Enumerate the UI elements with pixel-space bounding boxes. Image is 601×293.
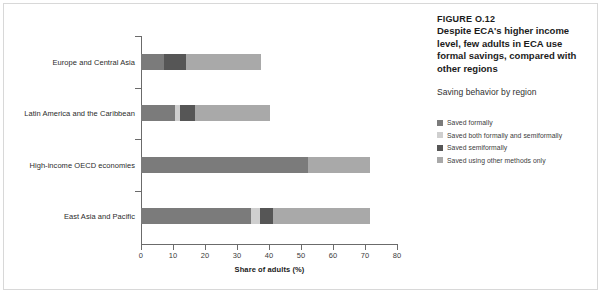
figure-text-panel: FIGURE O.12 Despite ECA's higher income … <box>437 14 592 168</box>
legend-swatch-icon <box>437 157 443 163</box>
bar-segment <box>260 208 273 224</box>
bar-segment <box>141 54 164 70</box>
x-axis-tick-label: 80 <box>385 251 409 260</box>
bar-segment <box>195 105 270 121</box>
x-axis-tick <box>301 245 302 250</box>
bar-segment <box>308 157 370 173</box>
y-axis-tick <box>135 139 141 140</box>
x-axis-tick-label: 30 <box>225 251 249 260</box>
legend-swatch-icon <box>437 120 443 126</box>
figure-subtitle: Saving behavior by region <box>437 87 592 97</box>
legend-label: Saved using other methods only <box>447 156 546 165</box>
legend-label: Saved semiformally <box>447 143 507 152</box>
x-axis-tick <box>205 245 206 250</box>
chart-legend: Saved formallySaved both formally and se… <box>437 118 592 165</box>
bar-segment <box>141 105 175 121</box>
x-axis-tick-label: 40 <box>257 251 281 260</box>
legend-item: Saved using other methods only <box>437 156 592 165</box>
bar-segment <box>141 208 251 224</box>
x-axis-tick <box>397 245 398 250</box>
bar-row <box>141 54 261 70</box>
x-axis-tick <box>141 245 142 250</box>
figure-number: FIGURE O.12 <box>437 14 592 24</box>
legend-swatch-icon <box>437 145 443 151</box>
x-axis-tick-label: 0 <box>129 251 153 260</box>
x-axis-tick-label: 60 <box>321 251 345 260</box>
figure-title: Despite ECA's higher income level, few a… <box>437 25 592 75</box>
category-label: Latin America and the Caribbean <box>8 109 135 118</box>
bar-segment <box>186 54 261 70</box>
category-label: High-income OECD economies <box>8 161 135 170</box>
bar-segment <box>164 54 187 70</box>
legend-swatch-icon <box>437 132 443 138</box>
bar-row <box>141 105 270 121</box>
x-axis-tick-label: 50 <box>289 251 313 260</box>
x-axis-tick-label: 20 <box>193 251 217 260</box>
figure-page: Europe and Central AsiaLatin America and… <box>0 0 601 293</box>
y-axis-tick <box>135 88 141 89</box>
category-label: East Asia and Pacific <box>8 212 135 221</box>
chart-panel: Europe and Central AsiaLatin America and… <box>8 8 420 285</box>
legend-label: Saved both formally and semiformally <box>447 131 562 140</box>
bar-row <box>141 157 370 173</box>
x-axis-title: Share of adults (%) <box>141 265 398 274</box>
bar-segment <box>180 105 195 121</box>
x-axis-tick <box>237 245 238 250</box>
bar-segment <box>251 208 259 224</box>
bar-segment <box>141 157 308 173</box>
legend-label: Saved formally <box>447 118 493 127</box>
y-axis-tick <box>135 191 141 192</box>
x-axis-tick <box>173 245 174 250</box>
category-label: Europe and Central Asia <box>8 58 135 67</box>
legend-item: Saved formally <box>437 118 592 127</box>
x-axis-tick <box>269 245 270 250</box>
legend-item: Saved semiformally <box>437 143 592 152</box>
bar-segment <box>273 208 370 224</box>
x-axis-tick-label: 10 <box>161 251 185 260</box>
x-axis-tick-label: 70 <box>353 251 377 260</box>
legend-item: Saved both formally and semiformally <box>437 131 592 140</box>
x-axis-tick <box>333 245 334 250</box>
bar-row <box>141 208 370 224</box>
x-axis-tick <box>365 245 366 250</box>
y-axis-tick <box>135 36 141 37</box>
